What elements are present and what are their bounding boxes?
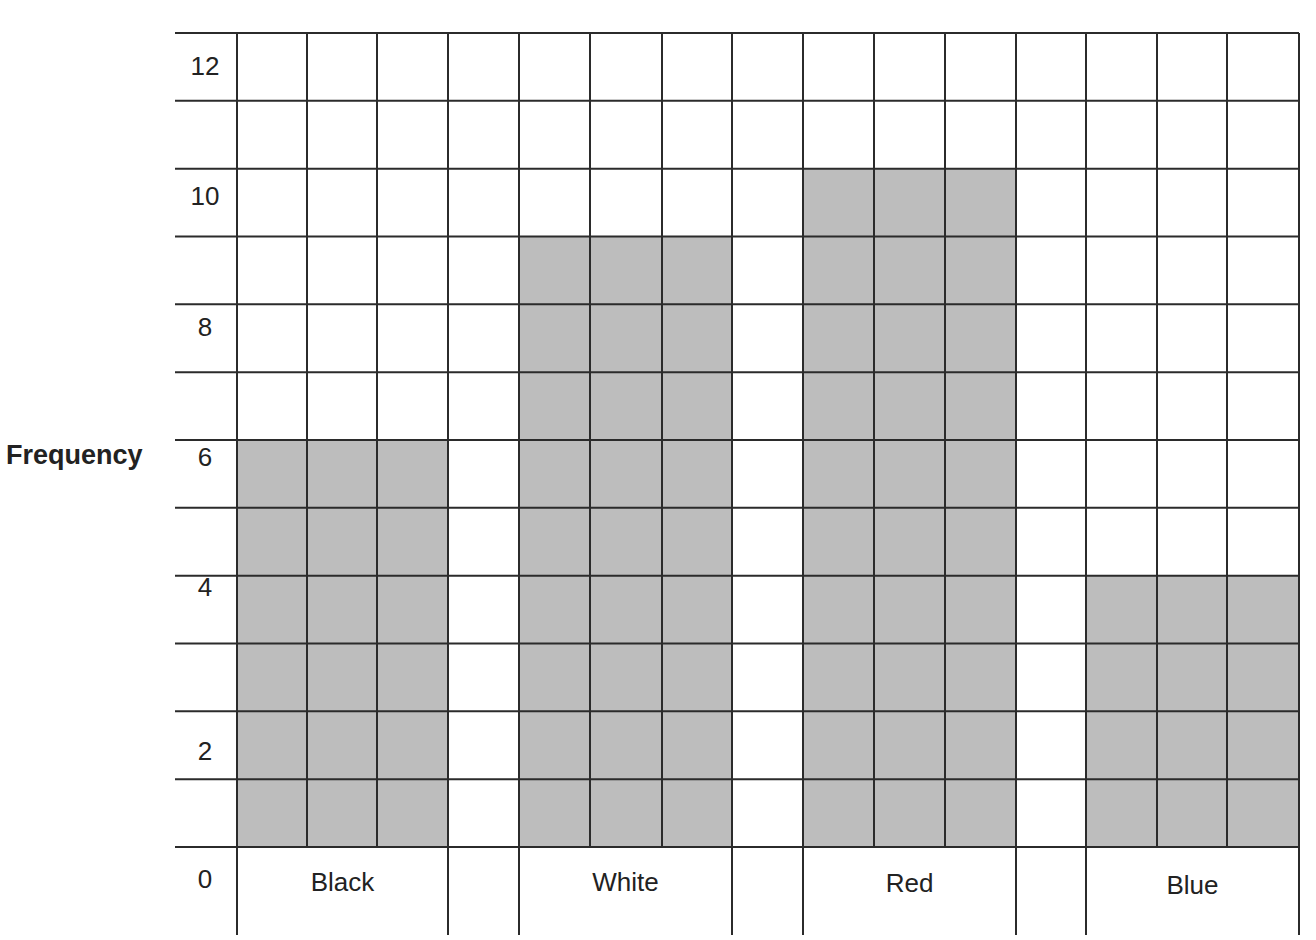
y-tick-12: 12 (175, 51, 235, 82)
category-label-white: White (519, 867, 732, 898)
y-tick-6: 6 (175, 442, 235, 473)
y-tick-0: 0 (175, 864, 235, 895)
y-tick-2: 2 (175, 736, 235, 767)
bar-white (590, 237, 662, 848)
y-tick-10: 10 (175, 181, 235, 212)
category-label-black: Black (237, 867, 448, 898)
y-axis-title: Frequency (6, 440, 143, 471)
category-label-red: Red (803, 868, 1016, 899)
frequency-bar-chart: Frequency 0 2 4 6 8 10 12 Black White Re… (0, 0, 1316, 940)
bar-white (662, 237, 732, 848)
y-tick-4: 4 (175, 572, 235, 603)
bar-white (519, 237, 590, 848)
y-tick-8: 8 (175, 312, 235, 343)
category-label-blue: Blue (1086, 870, 1299, 901)
